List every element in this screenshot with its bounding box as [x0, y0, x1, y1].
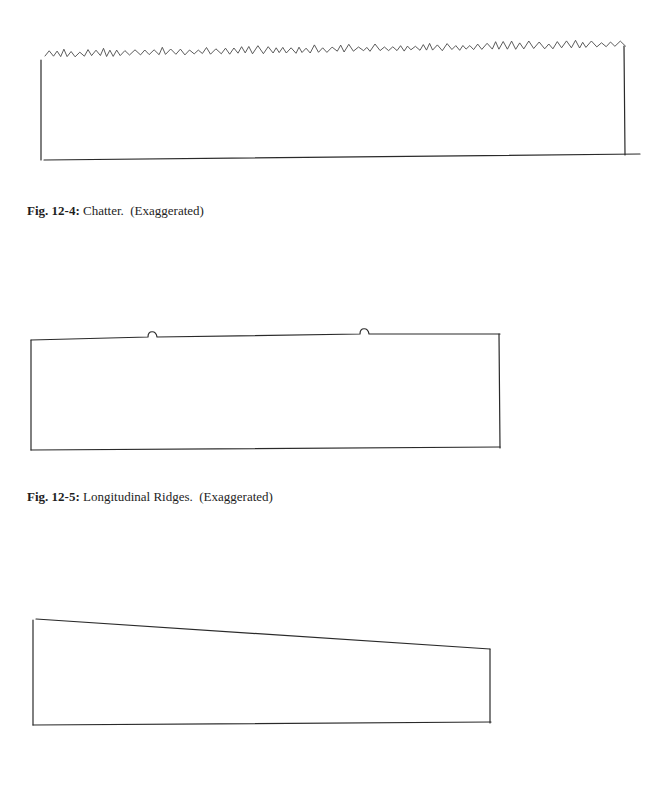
figure-taper — [0, 590, 651, 785]
figure-title: Chatter. — [83, 203, 124, 218]
figure-label: Fig. 12-4: — [27, 203, 80, 218]
figure-label: Fig. 12-5: — [27, 489, 80, 504]
figure-note: (Exaggerated) — [130, 203, 204, 218]
figure-longitudinal-ridges: Fig. 12-5: Longitudinal Ridges. (Exagger… — [0, 320, 651, 520]
caption-fig-12-5: Fig. 12-5: Longitudinal Ridges. (Exagger… — [27, 489, 273, 505]
figure-note: (Exaggerated) — [199, 489, 273, 504]
figure-chatter: Fig. 12-4: Chatter. (Exaggerated) — [0, 0, 651, 240]
chatter-zigzag-edge — [45, 40, 626, 57]
caption-fig-12-4: Fig. 12-4: Chatter. (Exaggerated) — [27, 203, 204, 219]
figure-title: Longitudinal Ridges. — [83, 489, 193, 504]
taper-diagram — [0, 590, 651, 785]
